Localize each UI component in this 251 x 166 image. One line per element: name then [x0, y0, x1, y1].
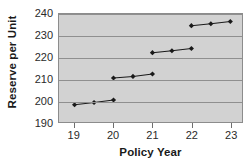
x-tick-label: 22	[186, 129, 198, 141]
y-tick-label: 200	[20, 95, 53, 107]
x-axis-title: Policy Year	[58, 146, 243, 158]
plot-area	[58, 13, 243, 123]
gridline	[59, 14, 242, 15]
x-tick-mark	[192, 123, 193, 128]
data-point-marker	[150, 71, 155, 76]
data-point-marker	[189, 23, 194, 28]
data-point-marker	[189, 46, 194, 51]
gridline	[59, 80, 242, 81]
y-tick-label: 190	[20, 117, 53, 129]
y-tick-label: 240	[20, 7, 53, 19]
x-tick-mark	[74, 123, 75, 128]
data-point-marker	[208, 21, 213, 26]
y-tick-label: 210	[20, 73, 53, 85]
data-point-marker	[228, 19, 233, 24]
x-tick-label: 21	[146, 129, 158, 141]
x-tick-mark	[113, 123, 114, 128]
data-point-marker	[130, 74, 135, 79]
gridline	[59, 102, 242, 103]
x-tick-label: 23	[225, 129, 237, 141]
y-axis-title: Reserve per Unit	[0, 0, 22, 124]
x-tick-mark	[231, 123, 232, 128]
reserve-per-unit-chart: Reserve per Unit 190200210220230240 1920…	[0, 0, 251, 166]
gridline	[59, 58, 242, 59]
y-tick-label: 220	[20, 51, 53, 63]
data-point-marker	[169, 48, 174, 53]
y-axis-title-text: Reserve per Unit	[5, 16, 17, 109]
x-tick-label: 20	[107, 129, 119, 141]
y-tick-label: 230	[20, 29, 53, 41]
x-tick-mark	[152, 123, 153, 128]
data-point-marker	[150, 50, 155, 55]
data-point-marker	[72, 102, 77, 107]
y-axis-tick-labels: 190200210220230240	[20, 0, 53, 166]
x-tick-label: 19	[68, 129, 80, 141]
series-layer	[59, 14, 242, 122]
gridline	[59, 36, 242, 37]
